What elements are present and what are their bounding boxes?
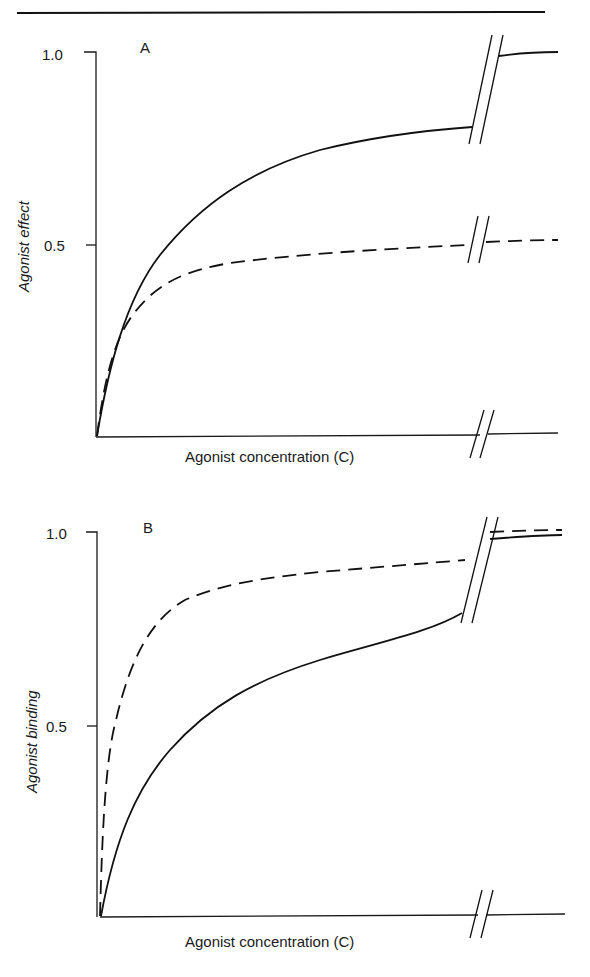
panel-b-x-break-mark: [481, 890, 493, 938]
figure: A 1.0 0.5 Agonist concentration (C) Agon…: [0, 0, 590, 977]
panel-b-x-axis: [100, 915, 478, 917]
panel-b-curve-break: [472, 517, 498, 623]
panel-b-curve-break: [461, 517, 487, 623]
panel-a-solid-curve-tail: [499, 52, 558, 56]
panel-a-curve-break: [480, 35, 503, 144]
panel-b-solid-curve: [101, 613, 462, 916]
panel-b-y-title: Agonist binding: [23, 690, 40, 794]
panel-b-y-axis: [86, 532, 97, 917]
panel-b-label: B: [143, 519, 153, 536]
panel-a-x-title: Agonist concentration (C): [185, 448, 354, 465]
panel-b-x-title: Agonist concentration (C): [185, 933, 354, 950]
panel-a-solid-curve: [97, 127, 472, 436]
panel-a-ytick-label-top: 1.0: [42, 46, 63, 63]
panel-a-dashed-break: [468, 216, 478, 263]
panel-b-x-break-mark: [470, 890, 482, 938]
panel-a-label: A: [140, 39, 150, 56]
panel-b: B 1.0 0.5 Agonist concentration (C) Agon…: [23, 517, 565, 950]
panel-b-dashed-curve: [100, 560, 465, 916]
panel-b-ytick-label-mid: 0.5: [46, 718, 67, 735]
panel-b-ytick-label-top: 1.0: [46, 525, 67, 542]
panel-a-dashed-curve: [97, 245, 468, 436]
top-rule: [17, 12, 545, 13]
panel-a-dashed-break: [479, 216, 489, 263]
panel-a-ytick-label-mid: 0.5: [44, 237, 65, 254]
panel-a-y-title: Agonist effect: [15, 200, 32, 293]
panel-a-dashed-curve-tail: [486, 240, 558, 242]
panel-b-dashed-curve-tail: [490, 530, 562, 532]
panel-a: A 1.0 0.5 Agonist concentration (C) Agon…: [15, 35, 558, 465]
panel-a-curve-break: [469, 35, 492, 144]
panel-a-x-axis-right: [488, 433, 558, 434]
panel-b-solid-curve-tail: [490, 535, 562, 539]
panel-a-x-axis: [96, 435, 480, 437]
panel-b-x-axis-right: [486, 914, 565, 915]
